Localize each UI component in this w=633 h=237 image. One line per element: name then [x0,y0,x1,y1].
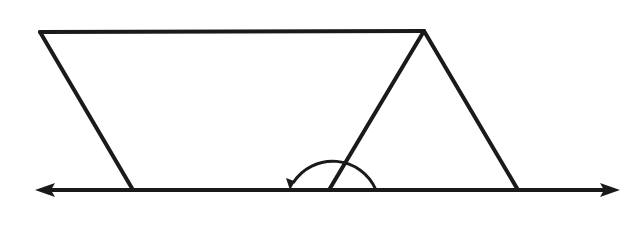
left-edge [40,32,133,190]
angle-arc [293,161,376,190]
right-edge [424,31,518,190]
middle-edge [329,31,424,190]
geometry-diagram [0,0,633,237]
top-edge [40,31,424,32]
